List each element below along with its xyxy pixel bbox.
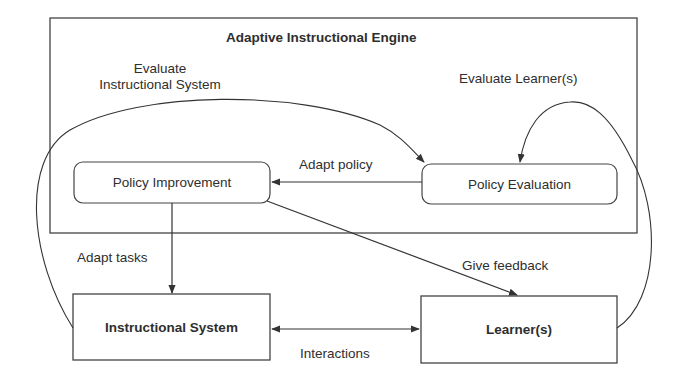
adapt-policy-label: Adapt policy bbox=[299, 157, 373, 173]
interactions-label: Interactions bbox=[300, 346, 370, 362]
learners-label: Learner(s) bbox=[421, 296, 617, 363]
evaluate-instructional-system-label-line1: Evaluate bbox=[82, 61, 238, 77]
evaluate-learners-curve bbox=[520, 102, 651, 328]
adapt-tasks-label: Adapt tasks bbox=[77, 250, 148, 266]
policy-improvement-label: Policy Improvement bbox=[74, 162, 270, 203]
instructional-system-label: Instructional System bbox=[73, 294, 270, 360]
policy-evaluation-label: Policy Evaluation bbox=[422, 164, 617, 204]
evaluate-instructional-system-label: Evaluate Instructional System bbox=[82, 61, 238, 93]
engine-title: Adaptive Instructional Engine bbox=[226, 30, 417, 46]
give-feedback-arrow bbox=[267, 201, 517, 295]
evaluate-learners-label: Evaluate Learner(s) bbox=[459, 71, 578, 87]
give-feedback-label: Give feedback bbox=[462, 258, 548, 274]
evaluate-instructional-system-label-line2: Instructional System bbox=[82, 77, 238, 93]
